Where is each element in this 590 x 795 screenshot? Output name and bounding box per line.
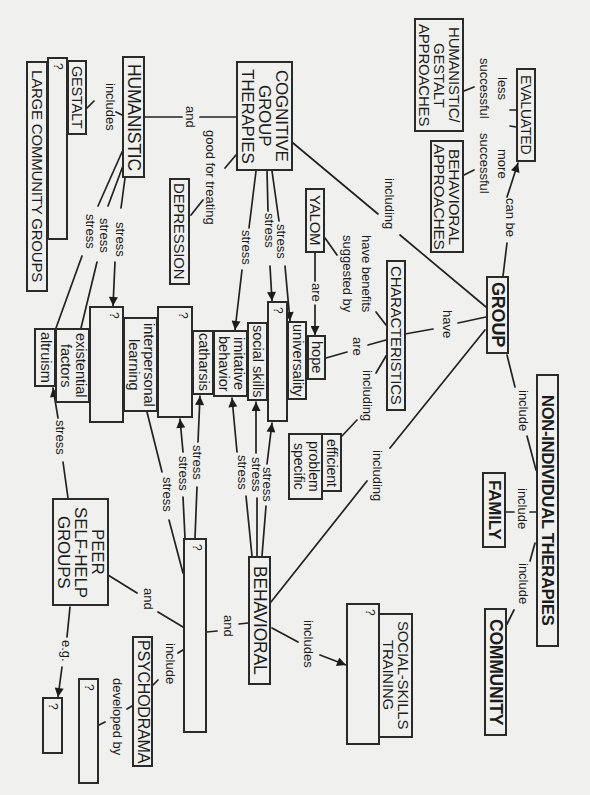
connector-line [249,171,256,228]
connector-line [376,312,386,325]
connector-line [153,680,158,685]
connector-line [239,623,248,624]
link-label-developed-by: developed by [110,678,124,755]
connector-line [405,329,433,334]
connector-line [63,462,68,498]
link-label-stress: stress [97,218,111,253]
connector-line [342,420,357,436]
node-unknown-example: ? [42,697,63,754]
connector-line [464,87,474,91]
connector-line [108,575,137,593]
connector-line [121,178,125,208]
node-unknown-factor-1: ? [267,301,288,422]
connector-line [272,628,298,642]
link-label-less-successful: less successful [475,58,511,119]
node-humanistic: HUMANISTIC [122,56,145,178]
connector-line [99,722,105,725]
link-label-including: including [382,178,396,229]
connector-line [147,412,162,472]
node-peer-self-help-groups: PEER SELF-HELP GROUPS [52,498,109,606]
connector-line [225,155,236,168]
link-label-have-benefits-suggested-by: have benefits suggested by [338,235,376,312]
link-label-and: and [183,106,197,128]
link-label-stress: stress [176,456,190,491]
link-label-can-be: can be [503,198,517,237]
node-catharsis: catharsis [192,330,214,395]
connector-line [530,543,535,561]
link-label-more-successful: more successful [475,133,511,194]
node-altruism: altruism [34,328,56,387]
connector-arrow [180,419,183,452]
connector-line [507,610,514,624]
node-unknown-therapy: ? [183,538,207,733]
connector-arrow [113,262,115,306]
node-unknown-developer: ? [78,678,99,784]
node-community: COMMUNITY [484,608,507,736]
link-label-stress: stress [260,467,274,502]
node-gestalt: GESTALT [67,60,87,135]
node-psychodrama: PSYCHODRAMA [132,636,153,767]
connector-line [183,497,185,538]
link-label-including: including [370,450,384,501]
link-label-including: including [360,370,374,421]
node-hope: hope [307,335,326,380]
connector-line [527,436,536,470]
node-cognitive-group-therapies: COGNITIVE GROUP THERAPIES [236,61,293,171]
connector-line [169,520,183,573]
connector-arrow [267,423,272,464]
connector-line [158,612,183,627]
connector-line [56,256,82,328]
link-label-are: are [350,337,364,356]
node-unknown-humanistic-type: ? [47,57,68,240]
node-depression: DEPRESSION [169,178,190,285]
link-label-and: and [141,588,155,610]
node-interpersonal-learning: interpersonal learning [123,317,158,412]
node-social-skills: social skills [247,322,268,401]
node-group: GROUP [486,276,509,354]
connector-line [267,171,268,211]
node-behavioral-approaches: BEHAVIORAL APPROACHES [430,140,464,253]
node-yalom: YALOM [305,188,325,253]
connector-line [368,340,386,345]
node-imitative-behavior: imitative behavior [213,330,248,397]
link-label-stress: stress [235,455,249,490]
link-label-includes: includes [103,83,117,131]
connector-line [326,352,347,358]
concept-map: COGNITIVE GROUP THERAPIES HUMANISTIC ? G… [0,0,590,795]
node-unknown-behavioral-type: ? [346,603,380,745]
connector-line [191,200,203,215]
link-label-and: and [221,615,235,637]
node-humanistic-gestalt-approaches: HUMANISTIC/ GESTALT APPROACHES [414,18,464,132]
node-universality: universality [287,321,307,400]
connector-arrow [235,270,242,330]
connector-line [67,607,70,637]
connector-line [246,496,252,556]
connector-line [464,170,474,175]
link-label-include: include [516,390,530,431]
node-large-community-groups: LARGE COMMUNITY GROUPS [26,61,48,292]
connector-line [262,506,266,556]
link-label-are: are [309,283,323,302]
link-label-stress: stress [83,214,97,249]
connector-arrow [270,266,272,301]
connector-arrow [198,396,200,442]
link-label-good-for-treating: good for treating [203,130,217,225]
link-label-stress: stress [53,420,67,455]
link-label-stress: stress [239,230,253,265]
node-existential-factors: existential factors [55,328,90,403]
node-social-skills-training: SOCIAL-SKILLS TRAINING [378,613,413,738]
connector-line [458,317,486,323]
connector-line [87,101,94,108]
connector-line [207,631,217,632]
link-label-stress: stress [274,224,288,259]
link-label-have: have [440,310,454,338]
connector-line [325,238,337,255]
link-label-stress: stress [160,477,174,512]
link-label-include: include [163,643,177,684]
node-behavioral: BEHAVIORAL [248,556,271,685]
node-non-individual-therapies: NON-INDIVIDUAL THERAPIES [536,374,559,647]
connector-line [503,243,507,276]
connector-arrow [320,655,346,665]
node-characteristics: CHARACTERISTICS [386,260,406,411]
link-label-include: include [516,563,530,604]
